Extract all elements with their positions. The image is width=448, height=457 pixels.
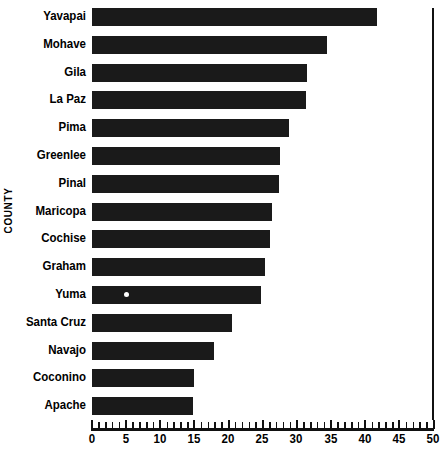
x-axis-tick-label: 40 xyxy=(351,432,379,446)
bar-row: Pinal xyxy=(0,175,448,193)
x-axis-minor-tick xyxy=(255,422,257,429)
x-axis-tick-label: 20 xyxy=(214,432,242,446)
x-axis-minor-tick xyxy=(372,422,374,429)
bar-row: Graham xyxy=(0,258,448,276)
x-axis-minor-tick xyxy=(201,422,203,429)
bar-row: Mohave xyxy=(0,36,448,54)
category-label: Greenlee xyxy=(7,145,86,165)
x-axis-minor-tick xyxy=(324,422,326,429)
x-axis-tick-label: 10 xyxy=(146,432,174,446)
x-axis-major-tick xyxy=(262,420,264,429)
x-axis-minor-tick xyxy=(208,422,210,429)
category-label: Navajo xyxy=(7,340,86,360)
x-axis-major-tick xyxy=(193,420,195,429)
category-label: Mohave xyxy=(7,34,86,54)
bar-row: Coconino xyxy=(0,369,448,387)
bar xyxy=(92,397,193,415)
x-axis-minor-tick xyxy=(317,422,319,429)
plot-area: YavapaiMohaveGilaLa PazPimaGreenleePinal… xyxy=(0,0,448,420)
x-axis-minor-tick xyxy=(242,422,244,429)
bar xyxy=(92,369,194,387)
x-axis-minor-tick xyxy=(132,422,134,429)
bar xyxy=(92,342,214,360)
x-axis-minor-tick xyxy=(105,422,107,429)
x-axis-tick-label: 15 xyxy=(180,432,208,446)
category-label: Coconino xyxy=(7,367,86,387)
bar xyxy=(92,119,289,137)
x-axis-minor-tick xyxy=(392,422,394,429)
x-axis-tick-label: 5 xyxy=(112,432,140,446)
x-axis-minor-tick xyxy=(351,422,353,429)
x-axis-minor-tick xyxy=(413,422,415,429)
bar xyxy=(92,91,306,109)
x-axis-minor-tick xyxy=(283,422,285,429)
bar-row: Cochise xyxy=(0,230,448,248)
bar xyxy=(92,203,272,221)
x-axis-tick-label: 50 xyxy=(419,432,447,446)
bar xyxy=(92,314,232,332)
x-axis-minor-tick xyxy=(426,422,428,429)
bar-row: La Paz xyxy=(0,91,448,109)
x-axis-major-tick xyxy=(228,420,230,429)
x-axis-minor-tick xyxy=(146,422,148,429)
x-axis-tick-label: 0 xyxy=(78,432,106,446)
bar xyxy=(92,64,307,82)
x-axis-major-tick xyxy=(296,420,298,429)
category-label: Santa Cruz xyxy=(7,312,86,332)
x-axis: 05101520253035404550 xyxy=(0,420,448,457)
x-axis-minor-tick xyxy=(276,422,278,429)
x-axis-minor-tick xyxy=(221,422,223,429)
bar xyxy=(92,286,261,304)
bar-chart: COUNTY YavapaiMohaveGilaLa PazPimaGreenl… xyxy=(0,0,448,457)
category-label: Pinal xyxy=(7,173,86,193)
x-axis-minor-tick xyxy=(98,422,100,429)
bar xyxy=(92,258,265,276)
x-axis-minor-tick xyxy=(310,422,312,429)
x-axis-minor-tick xyxy=(385,422,387,429)
bar xyxy=(92,175,279,193)
bar-row: Navajo xyxy=(0,342,448,360)
plot-right-border xyxy=(432,8,434,420)
x-axis-minor-tick xyxy=(290,422,292,429)
x-axis-major-tick xyxy=(159,420,161,429)
bar-row: Yavapai xyxy=(0,8,448,26)
bar-row: Greenlee xyxy=(0,147,448,165)
x-axis-tick-label: 25 xyxy=(248,432,276,446)
category-label: Graham xyxy=(7,256,86,276)
category-label: Yuma xyxy=(7,284,86,304)
x-axis-major-tick xyxy=(398,420,400,429)
category-label: Pima xyxy=(7,117,86,137)
x-axis-minor-tick xyxy=(214,422,216,429)
bar-row: Apache xyxy=(0,397,448,415)
bar-row: Maricopa xyxy=(0,203,448,221)
x-axis-minor-tick xyxy=(235,422,237,429)
x-axis-major-tick xyxy=(330,420,332,429)
x-axis-minor-tick xyxy=(378,422,380,429)
category-label: Yavapai xyxy=(7,6,86,26)
bar-marker-dot-icon xyxy=(124,292,129,297)
bar-row: Santa Cruz xyxy=(0,314,448,332)
bar xyxy=(92,8,377,26)
bar xyxy=(92,36,328,54)
x-axis-minor-tick xyxy=(187,422,189,429)
category-label: La Paz xyxy=(7,89,86,109)
bar-row: Gila xyxy=(0,64,448,82)
x-axis-tick-label: 30 xyxy=(283,432,311,446)
x-axis-minor-tick xyxy=(139,422,141,429)
category-label: Gila xyxy=(7,62,86,82)
x-axis-major-tick xyxy=(91,420,93,429)
category-label: Apache xyxy=(7,395,86,415)
category-label: Maricopa xyxy=(7,201,86,221)
bar xyxy=(92,230,271,248)
x-axis-minor-tick xyxy=(337,422,339,429)
x-axis-minor-tick xyxy=(180,422,182,429)
x-axis-minor-tick xyxy=(419,422,421,429)
x-axis-minor-tick xyxy=(112,422,114,429)
x-axis-major-tick xyxy=(364,420,366,429)
category-label: Cochise xyxy=(7,228,86,248)
x-axis-minor-tick xyxy=(406,422,408,429)
x-axis-minor-tick xyxy=(173,422,175,429)
x-axis-minor-tick xyxy=(119,422,121,429)
x-axis-minor-tick xyxy=(303,422,305,429)
bar-row: Pima xyxy=(0,119,448,137)
